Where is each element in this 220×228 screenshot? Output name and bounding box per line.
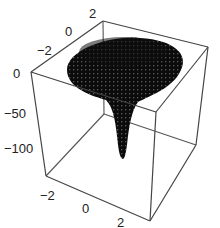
funnel-rim-shade [79,37,167,67]
bottom-axis-ticks: −2 0 2 [40,188,124,228]
funnel-surface [67,37,183,159]
box-edge-bottom-front-right [150,145,196,221]
surface-plot: 2 0 −2 0 −50 −100 −2 0 2 [0,0,220,228]
tick-label: −50 [4,106,26,121]
z-axis-ticks: 0 −50 −100 [4,66,33,156]
box-edge-left-vertical [31,72,46,176]
tick-label: 0 [13,66,20,81]
box-edge-back-left [46,114,104,176]
box-edge-bottom-front-left [46,176,150,221]
box-edge-right-vertical [196,47,208,145]
tick-label: −2 [37,43,52,58]
box-edge-front-vertical [150,112,156,221]
tick-label: 0 [82,201,89,216]
tick-label: 2 [89,6,96,21]
tick-label: −100 [4,141,33,156]
tick-label: 2 [117,215,124,228]
tick-label: −2 [40,188,55,203]
tick-label: 0 [65,24,72,39]
